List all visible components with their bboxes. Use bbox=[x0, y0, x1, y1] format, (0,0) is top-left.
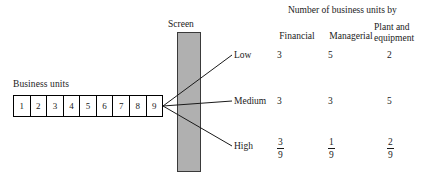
business-unit-cell: 4 bbox=[64, 96, 81, 116]
business-unit-cell: 6 bbox=[97, 96, 114, 116]
table-cell-high-managerial: 1 9 bbox=[328, 137, 335, 160]
screen-rectangle bbox=[177, 32, 201, 172]
table-cell-high-plant: 2 9 bbox=[387, 137, 394, 160]
business-unit-cell: 3 bbox=[47, 96, 64, 116]
table-cell-low-financial: 3 bbox=[277, 50, 282, 60]
fraction-numerator: 3 bbox=[277, 137, 284, 147]
table-cell-low-managerial: 5 bbox=[328, 50, 333, 60]
screen-label: Screen bbox=[168, 19, 194, 29]
fraction-denominator: 9 bbox=[328, 150, 335, 160]
column-header-financial: Financial bbox=[271, 31, 323, 41]
column-header-plant-and-equipment: Plant and equipment bbox=[374, 22, 436, 44]
table-cell-low-plant: 2 bbox=[387, 50, 392, 60]
business-unit-cell: 8 bbox=[130, 96, 147, 116]
column-header-plant-line2: equipment bbox=[374, 33, 414, 43]
branch-label-low: Low bbox=[234, 50, 251, 60]
fraction-high-financial: 3 9 bbox=[277, 137, 284, 160]
column-header-plant-line1: Plant and bbox=[374, 22, 410, 32]
business-unit-cell: 1 bbox=[14, 96, 31, 116]
fraction-numerator: 2 bbox=[387, 137, 394, 147]
business-unit-cell: 2 bbox=[31, 96, 48, 116]
fraction-numerator: 1 bbox=[328, 137, 335, 147]
column-header-managerial: Managerial bbox=[320, 31, 382, 41]
fraction-high-managerial: 1 9 bbox=[328, 137, 335, 160]
diagram-canvas: Business units 1 2 3 4 5 6 7 8 9 Screen … bbox=[0, 0, 440, 177]
business-unit-cell: 9 bbox=[147, 96, 163, 116]
fraction-high-plant: 2 9 bbox=[387, 137, 394, 160]
fraction-bar bbox=[328, 148, 335, 149]
branch-label-high: High bbox=[234, 141, 253, 151]
business-units-box: 1 2 3 4 5 6 7 8 9 bbox=[13, 95, 163, 117]
fraction-bar bbox=[387, 148, 394, 149]
business-units-label: Business units bbox=[13, 79, 69, 89]
branch-label-medium: Medium bbox=[234, 96, 266, 106]
fraction-bar bbox=[277, 148, 284, 149]
fraction-denominator: 9 bbox=[277, 150, 284, 160]
business-unit-cell: 7 bbox=[113, 96, 130, 116]
table-cell-medium-financial: 3 bbox=[277, 96, 282, 106]
table-cell-high-financial: 3 9 bbox=[277, 137, 284, 160]
business-unit-cell: 5 bbox=[80, 96, 97, 116]
fraction-denominator: 9 bbox=[387, 150, 394, 160]
table-title: Number of business units by bbox=[288, 5, 397, 15]
table-cell-medium-plant: 5 bbox=[387, 96, 392, 106]
table-cell-medium-managerial: 3 bbox=[328, 96, 333, 106]
